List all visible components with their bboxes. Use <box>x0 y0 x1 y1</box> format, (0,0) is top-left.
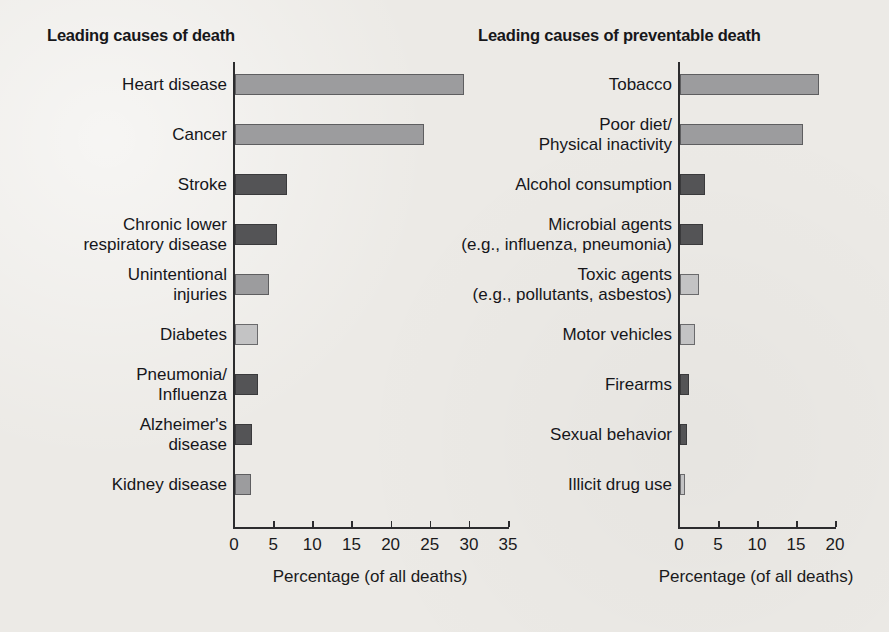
plot-area-right: 05101520Percentage (of all deaths)Tobacc… <box>440 62 889 532</box>
chart-panel-leading-causes-of-preventable-death: Leading causes of preventable death 0510… <box>440 0 889 632</box>
chart-panel-leading-causes-of-death: Leading causes of death 05101520253035Pe… <box>0 0 449 632</box>
category-label-line: Influenza <box>136 385 227 405</box>
bar[interactable] <box>680 324 695 345</box>
category-label-line: (e.g., pollutants, asbestos) <box>473 285 672 305</box>
x-axis-tick-label: 5 <box>268 535 277 555</box>
bar[interactable] <box>680 274 699 295</box>
category-label-line: Tobacco <box>609 75 672 95</box>
category-label-line: Toxic agents <box>473 265 672 285</box>
category-label: Pneumonia/Influenza <box>136 365 227 405</box>
bar[interactable] <box>235 74 464 95</box>
category-label-line: Firearms <box>605 375 672 395</box>
category-label: Poor diet/Physical inactivity <box>539 115 672 155</box>
bar[interactable] <box>235 274 269 295</box>
bar[interactable] <box>680 174 705 195</box>
category-label: Motor vehicles <box>562 325 672 345</box>
x-axis-tick-label: 15 <box>787 535 806 555</box>
category-label: Chronic lowerrespiratory disease <box>83 215 227 255</box>
category-label-line: Motor vehicles <box>562 325 672 345</box>
x-axis-tick <box>757 521 759 527</box>
category-label-line: Unintentional <box>128 265 227 285</box>
bar[interactable] <box>680 74 819 95</box>
bar[interactable] <box>235 124 424 145</box>
bar[interactable] <box>235 174 287 195</box>
category-label: Heart disease <box>122 75 227 95</box>
x-axis-tick-label: 15 <box>342 535 361 555</box>
x-axis-tick-label: 25 <box>420 535 439 555</box>
category-label: Unintentionalinjuries <box>128 265 227 305</box>
category-label-line: respiratory disease <box>83 235 227 255</box>
x-axis-tick <box>312 521 314 527</box>
plot-area-left: 05101520253035Percentage (of all deaths)… <box>0 62 449 532</box>
category-label-line: Cancer <box>172 125 227 145</box>
bar[interactable] <box>235 224 277 245</box>
category-label: Cancer <box>172 125 227 145</box>
chart-title-right: Leading causes of preventable death <box>478 26 761 45</box>
x-axis-tick <box>796 521 798 527</box>
category-label: Alcohol consumption <box>515 175 672 195</box>
category-label-line: Poor diet/ <box>539 115 672 135</box>
category-label: Toxic agents(e.g., pollutants, asbestos) <box>473 265 672 305</box>
category-label-line: (e.g., influenza, pneumonia) <box>461 235 672 255</box>
category-label-line: Diabetes <box>160 325 227 345</box>
category-label-line: disease <box>140 435 227 455</box>
bar[interactable] <box>680 424 687 445</box>
category-label: Alzheimer'sdisease <box>140 415 227 455</box>
category-label: Tobacco <box>609 75 672 95</box>
bar[interactable] <box>680 474 685 495</box>
category-label-line: Microbial agents <box>461 215 672 235</box>
x-axis-tick <box>351 521 353 527</box>
x-axis-tick-label: 10 <box>748 535 767 555</box>
x-axis-tick <box>273 521 275 527</box>
x-axis-label: Percentage (of all deaths) <box>273 567 468 587</box>
category-label: Firearms <box>605 375 672 395</box>
x-axis-tick <box>430 521 432 527</box>
category-label-line: Physical inactivity <box>539 135 672 155</box>
x-axis-label: Percentage (of all deaths) <box>659 567 854 587</box>
category-label-line: Heart disease <box>122 75 227 95</box>
x-axis-tick-label: 5 <box>713 535 722 555</box>
chart-title-left: Leading causes of death <box>47 26 235 45</box>
category-label-line: Chronic lower <box>83 215 227 235</box>
figure-canvas: Leading causes of death 05101520253035Pe… <box>0 0 889 632</box>
category-label-line: Alzheimer's <box>140 415 227 435</box>
category-label-line: Sexual behavior <box>550 425 672 445</box>
bar[interactable] <box>680 374 689 395</box>
x-axis-tick <box>391 521 393 527</box>
bar[interactable] <box>235 324 258 345</box>
category-label-line: Stroke <box>178 175 227 195</box>
x-axis-tick-label: 20 <box>826 535 845 555</box>
category-label-line: Illicit drug use <box>568 475 672 495</box>
category-label-line: injuries <box>128 285 227 305</box>
category-label: Illicit drug use <box>568 475 672 495</box>
category-label: Stroke <box>178 175 227 195</box>
bar[interactable] <box>680 124 803 145</box>
x-axis-tick <box>718 521 720 527</box>
category-label-line: Pneumonia/ <box>136 365 227 385</box>
category-label: Diabetes <box>160 325 227 345</box>
x-axis-tick-label: 0 <box>674 535 683 555</box>
category-label-line: Alcohol consumption <box>515 175 672 195</box>
bar[interactable] <box>680 224 703 245</box>
category-label: Kidney disease <box>112 475 227 495</box>
x-axis-tick-label: 0 <box>229 535 238 555</box>
bar[interactable] <box>235 474 251 495</box>
category-label-line: Kidney disease <box>112 475 227 495</box>
category-label: Sexual behavior <box>550 425 672 445</box>
x-axis-line <box>678 527 836 529</box>
x-axis-tick-label: 20 <box>381 535 400 555</box>
x-axis-tick <box>835 521 837 527</box>
bar[interactable] <box>235 424 252 445</box>
bar[interactable] <box>235 374 258 395</box>
x-axis-tick-label: 10 <box>303 535 322 555</box>
category-label: Microbial agents(e.g., influenza, pneumo… <box>461 215 672 255</box>
